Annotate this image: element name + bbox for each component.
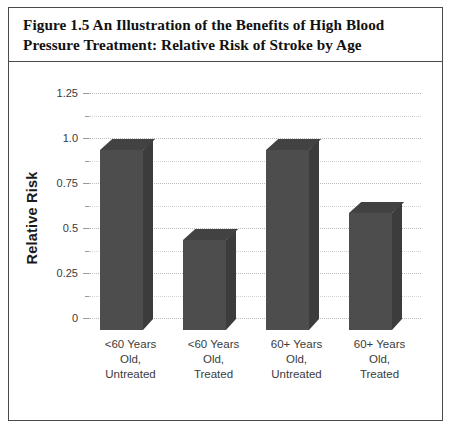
figure-caption: Figure 1.5 An Illustration of the Benefi… <box>23 15 427 55</box>
x-axis-label-line: Old, <box>172 352 255 367</box>
x-axis-category-label: <60 YearsOld,Treated <box>172 337 255 382</box>
y-axis-tick-label: 0 <box>72 312 78 324</box>
x-axis-label-line: 60+ Years <box>255 337 338 352</box>
y-axis-title: Relative Risk <box>24 148 40 288</box>
x-axis-label-line: Old, <box>255 352 338 367</box>
plot-region: 00.250.50.751.01.25<60 YearsOld,Untreate… <box>89 93 421 318</box>
figure-frame: Figure 1.5 An Illustration of the Benefi… <box>8 7 443 421</box>
y-tick-minor <box>85 296 89 297</box>
x-axis-label-line: Untreated <box>255 367 338 382</box>
y-tick-major <box>83 138 89 139</box>
y-axis-tick-label: 1.25 <box>57 87 78 99</box>
x-axis-label-line: <60 Years <box>172 337 255 352</box>
x-axis-label-line: Old, <box>89 352 172 367</box>
bar-side-face <box>309 139 319 330</box>
bar-front-face <box>349 213 392 330</box>
x-axis-label-line: 60+ Years <box>338 337 421 352</box>
y-tick-minor <box>85 161 89 162</box>
x-axis-label-line: <60 Years <box>89 337 172 352</box>
y-tick-minor <box>85 206 89 207</box>
x-axis-label-line: Old, <box>338 352 421 367</box>
y-axis-tick-label: 0.25 <box>57 267 78 279</box>
x-axis-category-label: <60 YearsOld,Untreated <box>89 337 172 382</box>
y-tick-major <box>83 183 89 184</box>
x-axis-label-line: Untreated <box>89 367 172 382</box>
gridline-major <box>89 93 421 94</box>
gridline-minor <box>89 116 421 117</box>
y-tick-major <box>83 318 89 319</box>
x-axis-category-label: 60+ YearsOld,Treated <box>338 337 421 382</box>
y-tick-minor <box>85 251 89 252</box>
y-axis-tick-label: 0.5 <box>63 222 78 234</box>
y-tick-major <box>83 93 89 94</box>
bar-front-face <box>183 240 226 330</box>
bar-front-face <box>100 150 143 330</box>
y-tick-minor <box>85 116 89 117</box>
bar-front-face <box>266 150 309 330</box>
bar <box>349 213 392 330</box>
chart-area: Relative Risk 00.250.50.751.01.25<60 Yea… <box>9 62 442 420</box>
bar-side-face <box>143 139 153 330</box>
bar <box>266 150 309 330</box>
x-axis-label-line: Treated <box>172 367 255 382</box>
y-axis-tick-label: 0.75 <box>57 177 78 189</box>
figure-caption-block: Figure 1.5 An Illustration of the Benefi… <box>9 8 442 62</box>
bar <box>183 240 226 330</box>
y-tick-major <box>83 228 89 229</box>
y-axis-tick-label: 1.0 <box>63 132 78 144</box>
bar <box>100 150 143 330</box>
y-tick-major <box>83 273 89 274</box>
x-axis-category-label: 60+ YearsOld,Untreated <box>255 337 338 382</box>
bar-side-face <box>392 202 402 330</box>
bar-side-face <box>226 229 236 330</box>
x-axis-label-line: Treated <box>338 367 421 382</box>
